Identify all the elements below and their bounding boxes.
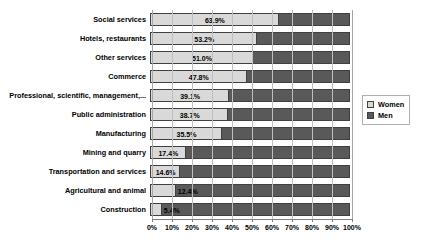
category-label: Construction: [0, 205, 150, 214]
stacked-bar[interactable]: 63.9%: [150, 13, 350, 26]
stacked-bar[interactable]: 38.7%: [150, 108, 350, 121]
axis-tick-label: 70%: [285, 224, 299, 231]
stacked-bar[interactable]: 53.2%: [150, 32, 350, 45]
legend-label-men: Men: [378, 111, 393, 120]
bar-value-label: 47.8%: [189, 73, 209, 80]
axis-tick-label: 80%: [305, 224, 319, 231]
legend-item-women[interactable]: Women: [367, 99, 404, 110]
axis-tick-label: 50%: [245, 224, 259, 231]
axis-tick-label: 40%: [225, 224, 239, 231]
axis-tick-label: 0%: [147, 224, 157, 231]
bar-value-label: 51.0%: [192, 54, 212, 61]
axis-tick: [152, 219, 153, 222]
chart-row: Social services63.9%: [0, 10, 426, 29]
axis-tick: [192, 219, 193, 222]
category-label: Manufacturing: [0, 129, 150, 138]
bar-value-label: 53.2%: [194, 35, 214, 42]
legend: Women Men: [362, 95, 410, 125]
bar-value-label: 17.4%: [158, 149, 178, 156]
stacked-bar[interactable]: 12.4%: [150, 184, 350, 197]
axis-tick-label: 100%: [343, 224, 361, 231]
chart-row: Other services51.0%: [0, 48, 426, 67]
bar-value-label: 38.7%: [180, 111, 200, 118]
category-label: Other services: [0, 53, 150, 62]
legend-label-women: Women: [378, 100, 404, 109]
chart-row: Manufacturing35.5%: [0, 124, 426, 143]
bar-segment-women: [151, 204, 162, 215]
chart-row: Transportation and services14.6%: [0, 162, 426, 181]
stacked-bar[interactable]: 17.4%: [150, 146, 350, 159]
bar-value-label: 39.1%: [180, 92, 200, 99]
chart-row: Construction5.4%: [0, 200, 426, 219]
x-axis: 0%10%20%30%40%50%60%70%80%90%100%: [152, 219, 352, 241]
category-label: Hotels, restaurants: [0, 34, 150, 43]
axis-tick: [292, 219, 293, 222]
axis-tick: [232, 219, 233, 222]
bar-value-label: 14.6%: [156, 168, 176, 175]
stacked-bar[interactable]: 35.5%: [150, 127, 350, 140]
category-label: Professional, scientific, management,...: [0, 91, 150, 100]
legend-item-men[interactable]: Men: [367, 110, 404, 121]
axis-tick-label: 10%: [165, 224, 179, 231]
stacked-bar-chart: Social services63.9%Hotels, restaurants5…: [0, 0, 426, 245]
axis-tick-label: 30%: [205, 224, 219, 231]
stacked-bar[interactable]: 14.6%: [150, 165, 350, 178]
bar-value-label: 63.9%: [205, 16, 225, 23]
axis-tick-label: 90%: [325, 224, 339, 231]
category-label: Social services: [0, 15, 150, 24]
axis-tick: [312, 219, 313, 222]
stacked-bar[interactable]: 51.0%: [150, 51, 350, 64]
bar-value-label: 12.4%: [178, 187, 198, 194]
legend-swatch-women: [367, 101, 374, 108]
legend-swatch-men: [367, 112, 374, 119]
category-label: Mining and quarry: [0, 148, 150, 157]
category-label: Commerce: [0, 72, 150, 81]
axis-tick: [172, 219, 173, 222]
chart-row: Agricultural and animal12.4%: [0, 181, 426, 200]
bar-value-label: 5.4%: [164, 206, 180, 213]
category-label: Public administration: [0, 110, 150, 119]
chart-row: Hotels, restaurants53.2%: [0, 29, 426, 48]
axis-tick-label: 60%: [265, 224, 279, 231]
chart-row: Commerce47.8%: [0, 67, 426, 86]
bar-segment-women: [151, 185, 176, 196]
axis-tick: [252, 219, 253, 222]
axis-tick: [352, 219, 353, 222]
stacked-bar[interactable]: 47.8%: [150, 70, 350, 83]
axis-tick: [272, 219, 273, 222]
axis-tick: [332, 219, 333, 222]
category-label: Agricultural and animal: [0, 186, 150, 195]
axis-tick-label: 20%: [185, 224, 199, 231]
category-label: Transportation and services: [0, 167, 150, 176]
stacked-bar[interactable]: 5.4%: [150, 203, 350, 216]
stacked-bar[interactable]: 39.1%: [150, 89, 350, 102]
axis-tick: [212, 219, 213, 222]
chart-row: Mining and quarry17.4%: [0, 143, 426, 162]
bar-value-label: 35.5%: [177, 130, 197, 137]
